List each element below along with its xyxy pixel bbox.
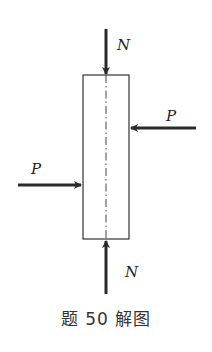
- force-label: P: [165, 107, 177, 125]
- force-label: N: [116, 36, 131, 54]
- force-bottom-N: N: [106, 241, 139, 294]
- figure-caption: 题 50 解图: [0, 305, 212, 330]
- force-right-P: P: [131, 107, 196, 128]
- beam-diagram: N N P P: [0, 0, 212, 352]
- force-label: P: [30, 160, 42, 178]
- force-label: N: [124, 263, 139, 281]
- force-left-P: P: [18, 160, 81, 185]
- force-top-N: N: [106, 29, 131, 74]
